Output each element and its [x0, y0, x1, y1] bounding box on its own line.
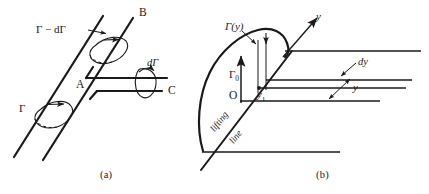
dy-leader-arrow	[341, 63, 356, 76]
label-gamma-zero: Γ0	[229, 69, 239, 83]
circulation-distribution-curve	[199, 29, 288, 151]
figure-container: Γ − dΓ Γ dΓ A B C (a) Γ(y) y Γ0 O y1 dy …	[0, 0, 429, 194]
circulation-loop-dgamma	[135, 69, 156, 98]
label-gamma: Γ	[19, 103, 25, 114]
y-span-double-arrow	[329, 79, 350, 99]
label-y-axis: y	[316, 11, 321, 22]
label-point-b: B	[139, 7, 147, 19]
circulation-arrow-upper	[104, 39, 119, 40]
label-gamma-zero-subscript: 0	[235, 74, 239, 83]
label-dgamma: dΓ	[147, 58, 158, 69]
circulation-arrow-lower	[48, 104, 64, 105]
label-point-c: C	[168, 85, 176, 97]
branch-connector-lower	[90, 91, 97, 99]
label-y1: y1	[257, 90, 265, 103]
label-dy: dy	[358, 57, 368, 68]
label-gamma-of-y: Γ(y)	[225, 21, 243, 32]
circulation-loop-gamma-minus-dgamma	[90, 37, 128, 63]
label-origin: O	[229, 90, 237, 102]
caption-panel-a: (a)	[100, 170, 112, 181]
label-y1-subscript: 1	[262, 95, 266, 103]
leader-gamma-minus-dgamma	[88, 30, 106, 34]
caption-panel-b: (b)	[316, 170, 329, 181]
label-gamma-minus-dgamma: Γ − dΓ	[36, 24, 66, 35]
branch-connector-upper	[86, 67, 93, 78]
panel-a-graphics	[14, 16, 167, 160]
label-y-span: y	[353, 83, 358, 94]
label-point-a: A	[76, 79, 84, 91]
